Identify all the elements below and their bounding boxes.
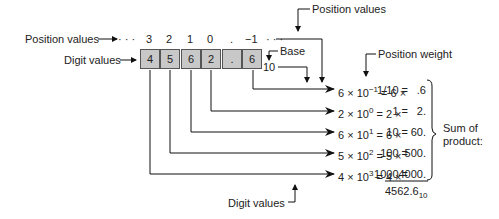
ellipsis-right: · · · (266, 33, 283, 45)
position-3: 3 (146, 33, 152, 45)
product-value: .6 (386, 84, 426, 96)
sum-label-line2: product: (443, 135, 483, 147)
position-point: . (230, 33, 233, 45)
product-value: 500. (386, 147, 426, 159)
base-label: Base (280, 45, 305, 57)
position-0: 0 (207, 33, 213, 45)
digit-values-bottom-label: Digit values (228, 197, 285, 209)
position-minus-1: −1 (245, 33, 258, 45)
product-value: 60. (386, 126, 426, 138)
positional-notation-diagram: Position values · · · 3 2 1 0 . −1 · · ·… (0, 0, 499, 219)
digit-cell: 4 (140, 49, 160, 69)
base-value: 10 (263, 61, 275, 73)
sum-label-line1: Sum of (443, 122, 478, 134)
digit-values-label: Digit values (64, 54, 121, 66)
result-value: 4562.610 (385, 185, 428, 202)
digit-cell: 6 (242, 49, 262, 69)
position-values-label: Position values (25, 33, 99, 45)
digit-cell: 2 (201, 49, 221, 69)
product-value: 2. (386, 105, 426, 117)
ellipsis-left: · · · (118, 33, 135, 45)
position-weight-label: Position weight (378, 48, 452, 60)
product-value: 4000. (386, 168, 426, 180)
digit-cell: 6 (181, 49, 201, 69)
digit-cell: 5 (160, 49, 180, 69)
decimal-point-cell: . (222, 49, 242, 69)
position-1: 1 (187, 33, 193, 45)
position-2: 2 (166, 33, 172, 45)
position-values-top-label: Position values (312, 3, 386, 15)
